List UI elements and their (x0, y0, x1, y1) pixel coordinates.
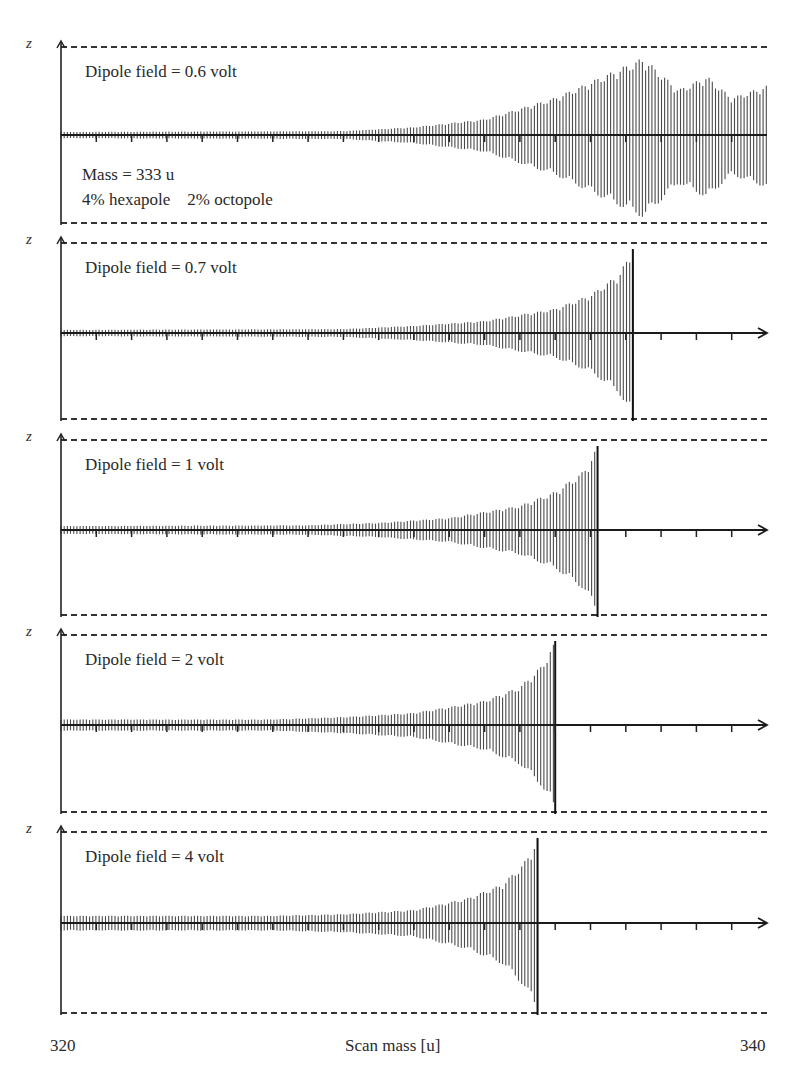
x-min-label: 320 (50, 1036, 76, 1056)
multipole-annotation: 4% hexapole 2% octopole (82, 190, 273, 210)
panel-label: Dipole field = 0.6 volt (85, 62, 237, 82)
y-axis-symbol: z (26, 820, 32, 837)
y-axis-symbol: z (26, 231, 32, 248)
x-axis-title: Scan mass [u] (345, 1036, 440, 1056)
panel-label: Dipole field = 1 volt (85, 455, 224, 475)
figure-canvas (0, 0, 798, 1081)
panel-label: Dipole field = 4 volt (85, 847, 224, 867)
y-axis-symbol: z (26, 623, 32, 640)
panel-label: Dipole field = 2 volt (85, 650, 224, 670)
x-max-label: 340 (740, 1036, 766, 1056)
panel-label: Dipole field = 0.7 volt (85, 258, 237, 278)
mass-annotation: Mass = 333 u (82, 165, 174, 185)
y-axis-symbol: z (26, 35, 32, 52)
y-axis-symbol: z (26, 428, 32, 445)
